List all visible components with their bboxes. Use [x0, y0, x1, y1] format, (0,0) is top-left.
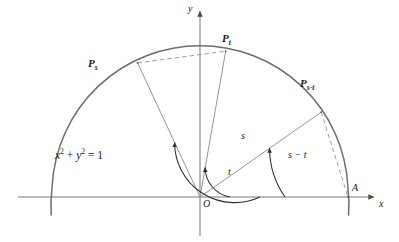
point-marker-ps — [137, 62, 139, 64]
label-circle-equation: x2 + y2 = 1 — [55, 148, 103, 161]
angle-arc-s-minus-t — [270, 148, 285, 197]
label-origin: O — [203, 199, 210, 209]
label-angle-s: s — [241, 131, 245, 141]
chord-ps-minus-t-to-a — [321, 112, 348, 197]
label-angle-s-minus-t: s − t — [288, 150, 306, 160]
point-marker-pt — [225, 50, 227, 52]
label-point-ps-minus-t: Ps-t — [300, 78, 314, 92]
chord-ps-to-pt — [138, 51, 226, 63]
label-y-axis: y — [188, 4, 192, 14]
angle-arc-s — [175, 143, 260, 203]
diagram-svg — [0, 0, 399, 242]
label-point-pt: Pt — [222, 33, 231, 47]
figure-canvas: Ps Pt Ps-t A O x y s t s − t x2 + y2 = 1 — [0, 0, 399, 242]
point-marker-a — [347, 196, 349, 198]
label-point-ps: Ps — [88, 58, 98, 72]
label-angle-t: t — [228, 167, 231, 177]
ray-to-pt — [200, 51, 226, 197]
angle-arc-t — [205, 167, 230, 197]
ray-to-ps — [138, 63, 201, 197]
point-marker-ps-minus-t — [320, 111, 322, 113]
label-x-axis: x — [379, 199, 383, 209]
label-point-a: A — [352, 183, 358, 193]
